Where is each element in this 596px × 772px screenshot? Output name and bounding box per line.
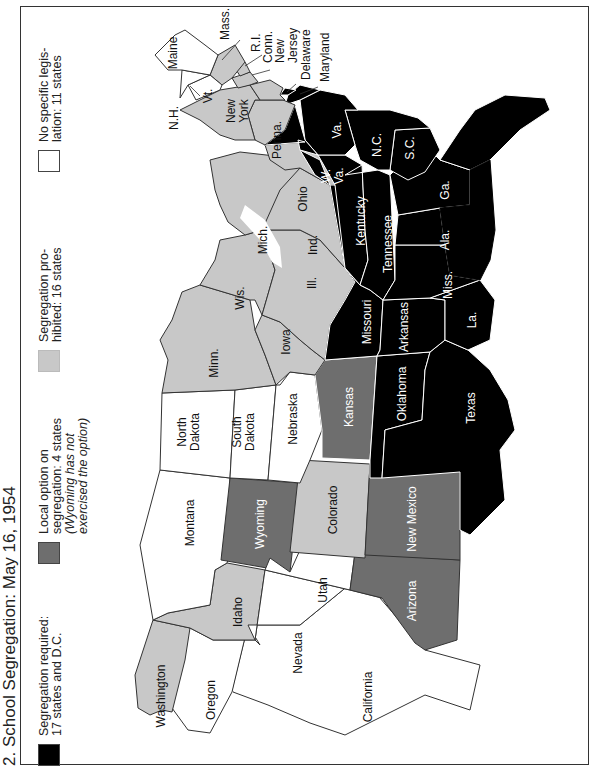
label-arizona: Arizona — [405, 580, 419, 621]
state-maine[interactable] — [155, 30, 218, 75]
label-new-york-2: York — [237, 98, 251, 123]
label-texas: Texas — [464, 392, 478, 423]
label-virginia: Va. — [330, 121, 344, 138]
label-west-virginia-2: Va. — [332, 167, 346, 184]
label-tennessee: Tennessee — [381, 215, 395, 273]
label-arkansas: Arkansas — [397, 302, 411, 352]
label-new-jersey-1: New — [273, 39, 287, 63]
label-rhode-island: R.I. — [249, 33, 263, 52]
label-kansas: Kansas — [342, 387, 356, 427]
label-maine: Maine — [166, 36, 180, 69]
label-illinois: Ill. — [305, 277, 319, 289]
label-oregon: Oregon — [204, 680, 218, 720]
label-colorado: Colorado — [326, 485, 340, 534]
label-south-carolina: S.C. — [403, 136, 417, 159]
label-montana: Montana — [183, 499, 197, 546]
label-wisconsin: Wis. — [233, 286, 247, 309]
label-indiana: Ind. — [306, 235, 320, 255]
label-massachusetts: Mass. — [218, 8, 232, 40]
state-arkansas[interactable] — [377, 298, 445, 356]
label-louisiana: La. — [465, 312, 479, 329]
label-vermont: Vt. — [201, 89, 215, 104]
label-idaho: Idaho — [231, 597, 245, 627]
label-pennsylvania: Penna. — [270, 121, 284, 159]
label-delaware: Delaware — [299, 29, 313, 80]
label-nevada: Nevada — [291, 632, 305, 674]
label-iowa: Iowa — [279, 329, 293, 355]
label-connecticut: Conn. — [261, 31, 275, 63]
label-new-jersey-2: Jersey — [286, 28, 300, 63]
label-wyoming: Wyoming — [253, 499, 267, 549]
state-florida[interactable] — [440, 95, 550, 170]
label-washington: Washington — [154, 665, 168, 728]
label-michigan: Mich. — [256, 226, 270, 255]
label-north-dakota-1: North — [175, 417, 189, 446]
label-kentucky: Kentucky — [354, 196, 368, 245]
label-new-york-1: New — [224, 99, 238, 123]
label-ohio: Ohio — [296, 186, 310, 212]
label-west-virginia-1: W. — [319, 169, 333, 183]
label-alabama: Ala. — [438, 230, 452, 251]
label-new-hampshire: N.H. — [167, 106, 181, 130]
label-utah: Utah — [316, 577, 330, 602]
label-maryland: Maryland — [318, 33, 332, 82]
label-missouri: Missouri — [360, 300, 374, 345]
label-nebraska: Nebraska — [286, 393, 300, 445]
label-california: California — [361, 671, 375, 722]
label-minnesota: Minn. — [207, 348, 221, 377]
label-south-dakota-2: Dakota — [243, 413, 257, 451]
label-north-carolina: N.C. — [370, 133, 384, 157]
label-mississippi: Miss. — [441, 271, 455, 299]
label-florida: Fla. — [506, 148, 520, 168]
label-georgia: Ga. — [438, 180, 452, 199]
label-south-dakota-1: South — [230, 416, 244, 447]
label-new-mexico: New Mexico — [405, 486, 419, 552]
us-map: Washington Oregon California Idaho Nevad… — [0, 0, 596, 772]
label-oklahoma: Oklahoma — [395, 366, 409, 421]
label-north-dakota-2: Dakota — [188, 413, 202, 451]
